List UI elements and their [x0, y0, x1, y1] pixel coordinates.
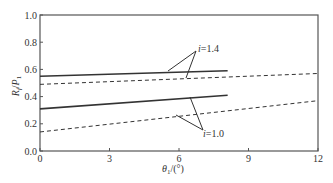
- axis-ticks: 0369120.00.20.40.60.81.0: [25, 10, 324, 165]
- plot-axes: [40, 15, 318, 151]
- annotation-leader: [176, 115, 203, 130]
- y-tick-label: 0.2: [25, 118, 38, 129]
- y-tick-label: 0.6: [25, 64, 38, 75]
- svg-text:Rf/P1: Rf/P1: [10, 75, 23, 97]
- annotation-i14: i=1.4: [198, 43, 219, 54]
- x-tick-label: 3: [107, 153, 112, 164]
- x-tick-label: 0: [38, 153, 43, 164]
- y-tick-label: 0.8: [25, 37, 38, 48]
- chart: 0369120.00.20.40.60.81.0 i=1.4 i=1.0 Rf/…: [0, 0, 333, 183]
- x-tick-label: 9: [246, 153, 251, 164]
- series-line: [40, 71, 228, 76]
- y-tick-label: 0.0: [25, 146, 38, 157]
- x-axis-label: θ1/(°): [162, 163, 184, 176]
- plot-frame: [40, 15, 318, 151]
- y-tick-label: 0.4: [25, 91, 38, 102]
- annotation-i10: i=1.0: [203, 128, 224, 139]
- annotations: i=1.4 i=1.0: [168, 43, 224, 139]
- svg-text:θ1/(°): θ1/(°): [162, 163, 184, 176]
- series-line: [40, 95, 228, 109]
- data-series: [40, 71, 318, 132]
- y-tick-label: 1.0: [25, 10, 38, 21]
- y-axis-label: Rf/P1: [10, 75, 23, 97]
- x-tick-label: 12: [313, 153, 323, 164]
